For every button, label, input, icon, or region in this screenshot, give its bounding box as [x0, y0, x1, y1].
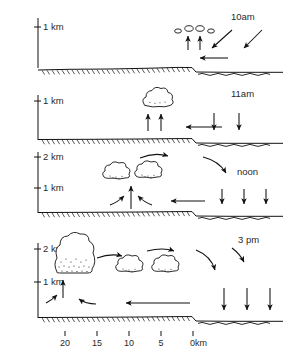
time-label-3pm: 3 pm	[238, 234, 259, 245]
clouds-10am	[175, 26, 215, 33]
water-surface-10am	[198, 73, 270, 75]
clouds-11am	[143, 87, 173, 107]
water-surface-noon	[198, 217, 270, 219]
y-axis-11am	[34, 95, 41, 140]
terrain-noon	[38, 212, 283, 220]
medium-cumulus-icon	[116, 255, 143, 272]
y-axis-3pm	[34, 243, 41, 318]
x-axis-tick-label: 15	[92, 338, 102, 348]
x-axis-tick-label: 10	[124, 338, 134, 348]
tiny-puff-icon	[196, 26, 204, 32]
y-axis-label-1km-3pm: 1 km	[43, 276, 64, 287]
small-cumulus-icon	[143, 87, 173, 107]
x-axis-tick-label: 0km	[190, 338, 207, 348]
medium-cumulus-icon	[135, 161, 162, 178]
panel-noon: 2 km 1 km noon	[34, 151, 283, 219]
sea-breeze-figure: 1 km 10am	[0, 0, 283, 355]
updraft-arrows-11am	[148, 114, 161, 131]
updraft-arrows-noon	[110, 186, 152, 209]
y-axis-10am	[34, 18, 41, 68]
medium-cumulus-icon	[103, 162, 130, 179]
clouds-noon	[103, 161, 162, 179]
tiny-puff-icon	[185, 26, 193, 32]
time-label-11am: 11am	[231, 88, 254, 99]
water-surface-3pm	[198, 322, 270, 324]
y-axis-label-1km-10am: 1 km	[43, 21, 64, 32]
terrain-11am	[38, 139, 283, 147]
y-axis-label-1km-11am: 1 km	[43, 95, 64, 106]
y-axis-noon	[34, 152, 41, 213]
onshore-arrow-3pm	[79, 299, 190, 304]
subsidence-arrows-noon	[222, 189, 266, 204]
x-axis-tick-label: 20	[60, 338, 70, 348]
panel-3pm: 2 km 1 km 3 pm	[34, 232, 283, 324]
y-axis-label-2km-noon: 2 km	[43, 151, 64, 162]
water-surface-11am	[198, 144, 270, 146]
terrain-3pm	[38, 317, 283, 325]
aloft-return-arrows-10am	[212, 30, 262, 48]
medium-cumulus-icon	[152, 255, 179, 272]
subsidence-arrows-3pm	[224, 288, 270, 310]
panel-10am: 1 km 10am	[34, 11, 283, 75]
terrain-10am	[38, 67, 283, 75]
updraft-arrows-10am	[188, 36, 200, 50]
y-axis-label-1km-noon: 1 km	[43, 182, 64, 193]
panel-11am: 1 km 11am	[34, 87, 283, 146]
tiny-puff-icon	[208, 29, 215, 33]
time-label-10am: 10am	[231, 11, 255, 22]
x-axis-tick-label: 5	[158, 338, 163, 348]
tiny-puff-icon	[175, 29, 182, 33]
clouds-3pm	[55, 232, 179, 273]
x-axis-scale: 20151050km	[60, 331, 207, 348]
time-label-noon: noon	[237, 166, 258, 177]
